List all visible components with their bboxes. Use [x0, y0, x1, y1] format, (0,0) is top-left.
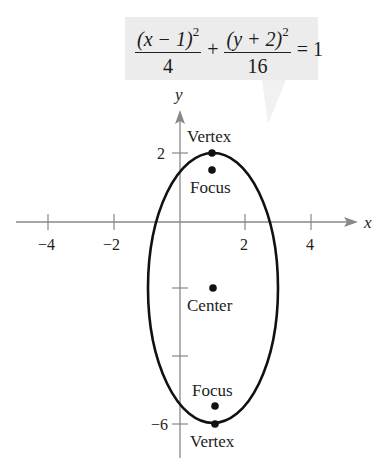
x-tick-label: −2	[103, 236, 120, 253]
top-focus-label: Focus	[190, 178, 231, 197]
y-tick-label: −6	[151, 416, 168, 433]
top-vertex-label: Vertex	[187, 127, 232, 146]
y-tick-label: 2	[157, 145, 165, 162]
x-axis: x −4 −2 2 4	[16, 213, 372, 253]
center-point	[209, 284, 217, 292]
x-axis-label: x	[363, 213, 372, 232]
bottom-vertex-point	[211, 420, 219, 428]
bottom-focus-label: Focus	[192, 381, 233, 400]
bottom-focus-point	[211, 402, 219, 410]
center-label: Center	[187, 296, 233, 315]
ellipse-plot: x −4 −2 2 4 y 2 −6 Vertex Focus Center F…	[0, 0, 375, 474]
bottom-vertex-label: Vertex	[190, 432, 235, 451]
x-tick-label: 2	[240, 236, 248, 253]
y-axis: y 2 −6	[151, 85, 188, 458]
top-vertex-point	[208, 149, 216, 157]
top-focus-point	[208, 166, 216, 174]
y-axis-label: y	[173, 85, 183, 104]
x-tick-label: −4	[38, 236, 55, 253]
x-tick-label: 4	[306, 236, 314, 253]
